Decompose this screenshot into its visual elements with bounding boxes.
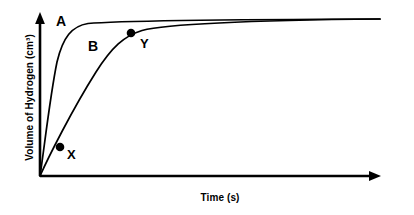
y-axis-arrowhead — [35, 12, 45, 24]
x-axis-title: Time (s) — [170, 192, 270, 203]
curve-b-label: B — [88, 39, 98, 53]
point-y-marker — [127, 29, 136, 38]
point-x-label: X — [67, 148, 76, 161]
y-axis-title: Volume of Hydrogen (cm³) — [24, 23, 35, 173]
curve-a-label: A — [56, 14, 66, 28]
point-y-label: Y — [140, 37, 149, 50]
chart-plot-area — [0, 0, 414, 215]
point-x-marker — [56, 143, 65, 152]
x-axis-arrowhead — [369, 171, 381, 181]
reaction-rate-chart: Volume of Hydrogen (cm³) Time (s) A B X … — [0, 0, 414, 215]
